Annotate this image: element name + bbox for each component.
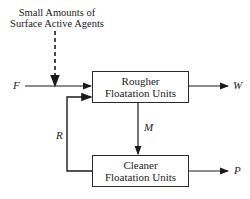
middle-label: M: [144, 121, 153, 133]
cleaner-floatation-box: Cleaner Floatation Units: [92, 155, 189, 187]
rougher-floatation-box: Rougher Floatation Units: [92, 71, 189, 103]
cleaner-sublabel: Floatation Units: [105, 171, 176, 183]
annotation-line-1: Small Amounts of: [2, 7, 112, 18]
rougher-sublabel: Floatation Units: [105, 87, 176, 99]
annotation-line-2: Surface Active Agents: [2, 18, 112, 29]
surface-agents-annotation: Small Amounts of Surface Active Agents: [2, 7, 112, 29]
rougher-label: Rougher: [122, 75, 160, 87]
recycle-arrow: [67, 97, 92, 171]
waste-label: W: [233, 79, 242, 91]
product-label: P: [234, 164, 241, 176]
cleaner-label: Cleaner: [123, 159, 157, 171]
feed-label: F: [13, 79, 20, 91]
recycle-label: R: [56, 129, 63, 141]
